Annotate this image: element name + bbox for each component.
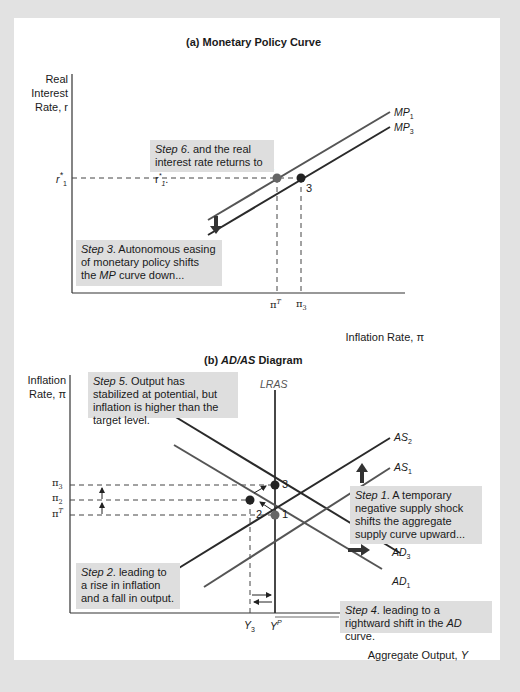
as1-label: AS1 xyxy=(394,461,412,475)
panel-a-x-axis-label: Inflation Rate, π xyxy=(314,330,424,344)
r-star-tick: r*1 xyxy=(56,170,67,187)
point-2-b-label: 2 xyxy=(256,508,262,520)
point-2-b xyxy=(246,496,255,505)
point-1-b-label: 1 xyxy=(282,508,288,520)
point-3-a-label: 3 xyxy=(306,182,312,194)
pi-target-tick-b: πT xyxy=(52,507,63,519)
point-3-b-label: 3 xyxy=(282,478,288,490)
step5-callout: Step 5. Output has stabilized at potenti… xyxy=(88,372,238,418)
ad1-label: AD1 xyxy=(392,575,411,589)
pi3-tick-b: π3 xyxy=(52,477,63,491)
step3-callout: Step 3. Autonomous easing of monetary po… xyxy=(76,240,222,286)
pi2-tick-b: π2 xyxy=(52,492,63,506)
ad3-label: AD3 xyxy=(392,546,411,560)
as-shift-up-arrow-icon xyxy=(356,463,368,483)
point-1-a xyxy=(273,174,282,183)
point-1-b xyxy=(271,511,280,520)
step1-callout: Step 1. A temporary negative supply shoc… xyxy=(350,486,482,544)
panel-b-y-axis-label: Inflation Rate, π xyxy=(18,373,66,401)
step6-callout: Step 6. and the real interest rate retur… xyxy=(150,140,274,172)
panel-b-title: (b) AD/AS Diagram xyxy=(204,354,302,366)
as2-label: AS2 xyxy=(394,431,412,445)
step2-callout: Step 2. leading to a rise in inflation a… xyxy=(76,563,180,609)
point-3-a xyxy=(297,174,306,183)
lras-label: LRAS xyxy=(260,378,287,390)
arrow-2-to-3-icon xyxy=(254,486,266,493)
step4-callout: Step 4. leading to a rightward shift in … xyxy=(340,601,492,633)
point-3-b xyxy=(271,481,280,490)
yp-tick: YP xyxy=(270,619,282,632)
figure-panel: (a) Monetary Policy Curve Real Interest … xyxy=(14,18,500,660)
pi3-tick-a: π3 xyxy=(296,298,307,312)
panel-b-x-axis-label: Aggregate Output, Y xyxy=(344,648,468,662)
pi-target-tick-a: πT xyxy=(270,298,281,310)
mp1-label: MP1 xyxy=(394,106,414,120)
y3-tick: Y3 xyxy=(244,619,255,633)
mp3-label: MP3 xyxy=(394,121,414,135)
